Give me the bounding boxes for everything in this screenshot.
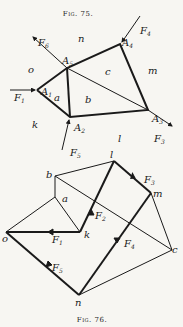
fig76-caption: Fig. 76. (77, 316, 107, 324)
svg-text:A4: A4 (121, 37, 133, 49)
svg-text:F2: F2 (94, 210, 106, 222)
svg-text:A5: A5 (61, 55, 73, 67)
svg-text:o: o (28, 64, 34, 75)
svg-text:F6: F6 (37, 37, 49, 49)
svg-text:F3: F3 (153, 133, 165, 145)
svg-text:a: a (62, 193, 68, 204)
svg-text:F5: F5 (51, 262, 63, 274)
fig76-labels: l b a m o k c n F1 F2 F3 F4 F5 (2, 149, 178, 308)
svg-text:c: c (172, 244, 178, 255)
fig75-caption: Fig. 75. (63, 10, 93, 18)
svg-text:a: a (54, 92, 60, 103)
svg-text:F1: F1 (13, 92, 25, 104)
svg-text:A3: A3 (151, 113, 163, 125)
svg-text:b: b (85, 94, 91, 105)
svg-text:m: m (153, 188, 162, 199)
svg-text:c: c (105, 66, 111, 77)
svg-text:A2: A2 (73, 122, 85, 134)
svg-text:l: l (118, 133, 121, 144)
svg-text:F4: F4 (139, 25, 151, 37)
svg-text:k: k (84, 229, 90, 240)
svg-text:m: m (148, 65, 157, 76)
svg-text:F4: F4 (123, 238, 135, 250)
funicular-diagrams: Fig. 75. n o a b c m k l F6 F4 F1 F5 F3 … (0, 0, 183, 327)
svg-text:b: b (46, 169, 52, 180)
fig75-labels: n o a b c m k l F6 F4 F1 F5 F3 A5 A4 A1 … (13, 25, 165, 159)
svg-text:l: l (110, 149, 113, 160)
svg-text:A1: A1 (40, 86, 52, 98)
svg-text:n: n (78, 33, 84, 44)
svg-text:F1: F1 (51, 234, 63, 246)
svg-text:k: k (32, 119, 38, 130)
svg-text:n: n (75, 297, 81, 308)
svg-text:F5: F5 (69, 147, 81, 159)
svg-text:F3: F3 (143, 174, 155, 186)
svg-text:o: o (2, 233, 8, 244)
